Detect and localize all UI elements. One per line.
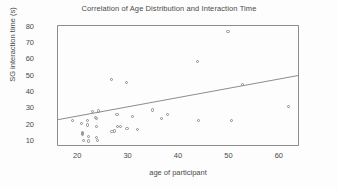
data-point <box>71 119 74 122</box>
y-tick-60: 60 <box>12 55 34 63</box>
y-tick-50: 50 <box>12 72 34 80</box>
y-tick-10: 10 <box>12 137 34 145</box>
x-tick-20: 20 <box>66 152 88 160</box>
axes-and-trendline-svg <box>57 25 299 146</box>
scatter-chart-figure: Correlation of Age Distribution and Inte… <box>0 0 338 189</box>
x-tick-30: 30 <box>117 152 139 160</box>
y-tick-80: 80 <box>12 23 34 31</box>
chart-title: Correlation of Age Distribution and Inte… <box>0 4 338 13</box>
data-point <box>125 81 128 84</box>
tick-marks <box>57 27 279 146</box>
axis-lines <box>58 26 299 146</box>
data-point <box>86 123 89 126</box>
regression-trendline <box>57 75 299 119</box>
data-point <box>125 127 128 130</box>
y-tick-30: 30 <box>12 104 34 112</box>
data-point <box>115 113 118 116</box>
data-point <box>96 139 99 142</box>
y-tick-40: 40 <box>12 88 34 96</box>
x-axis-label: age of participant <box>57 168 299 177</box>
data-point <box>86 119 89 122</box>
data-point <box>226 30 229 33</box>
data-point <box>113 129 116 132</box>
data-point <box>131 115 134 118</box>
data-point <box>166 113 169 116</box>
y-tick-70: 70 <box>12 39 34 47</box>
axes-frame <box>57 25 299 146</box>
data-point <box>136 128 139 131</box>
x-tick-50: 50 <box>217 152 239 160</box>
x-tick-60: 60 <box>268 152 290 160</box>
data-point <box>197 119 200 122</box>
data-point <box>97 109 100 112</box>
x-tick-40: 40 <box>167 152 189 160</box>
data-point <box>95 125 98 128</box>
plot-area <box>57 25 299 146</box>
y-tick-20: 20 <box>12 121 34 129</box>
data-point <box>80 122 83 125</box>
